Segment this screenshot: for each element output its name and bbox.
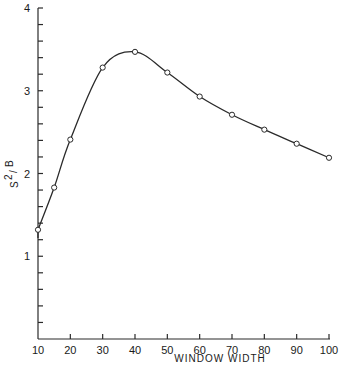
data-point-marker — [132, 49, 137, 54]
x-tick-label: 100 — [320, 344, 338, 356]
data-point-marker — [35, 227, 40, 232]
data-point-marker — [100, 65, 105, 70]
data-point-marker — [229, 112, 234, 117]
data-point-marker — [165, 70, 170, 75]
x-tick-label: 40 — [129, 344, 141, 356]
y-tick-label: 4 — [24, 2, 30, 14]
svg-text:/: / — [8, 169, 19, 173]
x-tick-label: 90 — [291, 344, 303, 356]
svg-text:S: S — [9, 180, 20, 188]
y-tick-label: 2 — [24, 168, 30, 180]
data-markers — [35, 49, 331, 232]
y-axis: 1234 — [24, 2, 43, 339]
svg-text:2: 2 — [3, 173, 14, 180]
x-axis-title: WINDOW WIDTH — [174, 353, 265, 364]
y-tick-label: 3 — [24, 85, 30, 97]
x-tick-label: 20 — [64, 344, 76, 356]
x-tick-label: 10 — [32, 344, 44, 356]
data-point-marker — [52, 185, 57, 190]
data-point-marker — [197, 94, 202, 99]
data-point-marker — [262, 127, 267, 132]
x-tick-label: 50 — [161, 344, 173, 356]
line-chart: 1234 102030405060708090100 S2/B WINDOW W… — [0, 0, 344, 372]
y-tick-label: 1 — [24, 250, 30, 262]
y-axis-title: S2/B — [3, 159, 20, 188]
data-curve — [38, 52, 329, 238]
x-tick-label: 30 — [97, 344, 109, 356]
data-point-marker — [68, 137, 73, 142]
svg-text:B: B — [4, 159, 15, 167]
data-point-marker — [326, 155, 331, 160]
data-point-marker — [294, 141, 299, 146]
